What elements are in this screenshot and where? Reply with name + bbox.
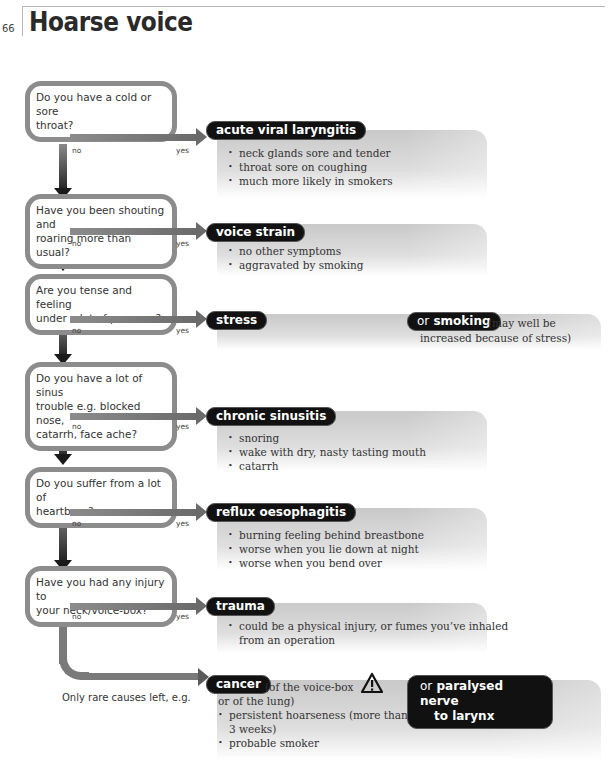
- symptom-list-reflux: burning feeling behind breastboneworse w…: [228, 528, 424, 570]
- question-box-sinus: Do you have a lot of sinustrouble e.g. b…: [25, 362, 177, 451]
- down-arrow-icon: [54, 454, 72, 465]
- cancer-note-cont: or of the lung): [218, 694, 294, 708]
- yes-label: yes: [176, 422, 189, 431]
- question-box-heartburn: Do you suffer from a lot ofheartburn?: [25, 467, 177, 528]
- final-path-horizontal: [86, 673, 200, 680]
- diagnosis-alt-smoking: or smoking: [407, 312, 501, 331]
- no-label: no: [72, 146, 81, 155]
- no-label: no: [72, 326, 81, 335]
- symptom-list-voice-strain: no other symptomsaggravated by smoking: [228, 244, 364, 272]
- page-number: 66: [2, 23, 15, 34]
- no-label: no: [72, 239, 81, 248]
- cancer-note: (of the voice-box: [265, 680, 353, 694]
- question-box-stress: Are you tense and feelingunder a lot of …: [25, 274, 177, 335]
- yes-label: yes: [176, 239, 189, 248]
- yes-arrow-4: [70, 413, 197, 420]
- yes-arrow-6: [70, 603, 197, 610]
- no-label: no: [72, 519, 81, 528]
- question-box-cold: Do you have a cold or sorethroat?: [25, 81, 177, 142]
- no-label: no: [72, 422, 81, 431]
- header-divider: [22, 6, 23, 36]
- yes-label: yes: [176, 612, 189, 621]
- diagnosis-acute-viral-laryngitis: acute viral laryngitis: [206, 121, 366, 140]
- diagnosis-trauma: trauma: [206, 597, 275, 616]
- smoking-note: (may well be: [488, 316, 556, 330]
- symptom-list-trauma: could be a physical injury, or fumes you…: [228, 619, 508, 647]
- symptom-list-sinusitis: snoringwake with dry, nasty tasting mout…: [228, 431, 426, 473]
- smoking-note-cont: increased because of stress): [420, 331, 571, 345]
- yes-label: yes: [176, 326, 189, 335]
- yes-label: yes: [176, 146, 189, 155]
- final-path-curve: [59, 650, 89, 680]
- yes-arrow-1: [70, 134, 197, 141]
- diagnosis-voice-strain: voice strain: [206, 223, 305, 242]
- diagnosis-reflux-oesophagitis: reflux oesophagitis: [206, 503, 356, 522]
- yes-arrow-5: [70, 509, 197, 516]
- yes-arrow-3: [70, 316, 197, 323]
- diagnosis-cancer: cancer: [206, 675, 271, 694]
- question-box-injury: Have you had any injury toyour neck/voic…: [25, 566, 177, 627]
- rare-causes-label: Only rare causes left, e.g.: [62, 691, 191, 705]
- no-path-1: [59, 144, 67, 194]
- page-title: Hoarse voice: [29, 6, 193, 37]
- no-label: no: [72, 612, 81, 621]
- warning-triangle-icon: [360, 672, 384, 694]
- symptom-list-cancer: persistent hoarseness (more than 3 weeks…: [218, 708, 408, 750]
- diagnosis-stress: stress: [206, 311, 267, 330]
- symptom-list-laryngitis: neck glands sore and tenderthroat sore o…: [228, 146, 393, 188]
- yes-label: yes: [176, 519, 189, 528]
- diagnosis-chronic-sinusitis: chronic sinusitis: [206, 407, 336, 426]
- yes-arrow-2: [70, 228, 197, 235]
- diagnosis-alt-paralysed-nerve: or paralysed nerve to larynx: [407, 675, 553, 729]
